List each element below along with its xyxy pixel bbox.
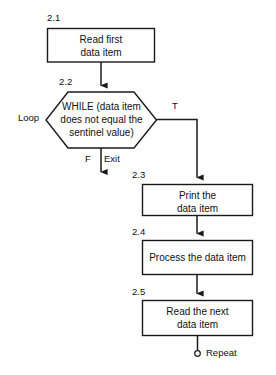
- step-label-2-5: 2.5: [132, 287, 145, 297]
- edge-label-true: T: [172, 101, 178, 111]
- node-box-2-1[interactable]: [48, 29, 155, 63]
- node-box-2-4[interactable]: [143, 241, 253, 275]
- edge-label-false: F: [85, 154, 91, 164]
- edge-label-repeat: Repeat: [206, 348, 237, 358]
- edge-true-branch: [157, 120, 198, 178]
- repeat-connector-circle: [195, 351, 201, 357]
- step-label-2-1: 2.1: [47, 13, 60, 23]
- flowchart-canvas: 2.1 2.2 2.3 2.4 2.5 Read first data item…: [0, 0, 276, 375]
- step-label-2-3: 2.3: [132, 170, 145, 180]
- node-hexagon-2-2[interactable]: [46, 92, 157, 148]
- step-label-2-2: 2.2: [59, 77, 72, 87]
- edge-label-exit: Exit: [104, 154, 120, 164]
- node-box-2-5[interactable]: [143, 301, 253, 336]
- flowchart-graphics: [0, 0, 276, 375]
- step-label-2-4: 2.4: [132, 227, 145, 237]
- node-box-2-3[interactable]: [143, 185, 253, 216]
- edge-label-loop: Loop: [18, 113, 39, 123]
